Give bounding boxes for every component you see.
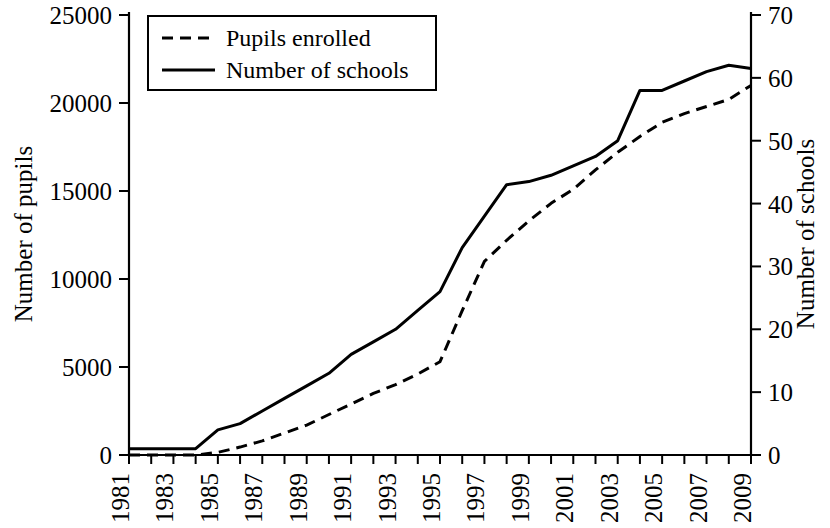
left-tick-label: 10000 [50, 266, 113, 293]
x-tick-label: 1981 [107, 473, 134, 523]
line-chart: 0500010000150002000025000 01020304050607… [0, 0, 830, 528]
x-tick-label: 1989 [285, 473, 312, 523]
x-axis-tick-labels: 1981198319851987198919911993199519971999… [107, 473, 756, 523]
x-tick-label: 1999 [507, 473, 534, 523]
left-tick-label: 25000 [50, 2, 113, 29]
left-tick-label: 0 [100, 442, 113, 469]
x-tick-label: 2005 [640, 473, 667, 523]
x-tick-label: 2007 [685, 473, 712, 523]
right-tick-label: 50 [768, 128, 793, 155]
right-tick-label: 70 [768, 2, 793, 29]
right-tick-label: 40 [768, 191, 793, 218]
right-tick-label: 20 [768, 316, 793, 343]
x-tick-label: 2001 [551, 473, 578, 523]
right-tick-label: 30 [768, 253, 793, 280]
x-tick-label: 1983 [151, 473, 178, 523]
y-axis-title: Number of pupils [10, 146, 37, 322]
right-tick-label: 10 [768, 379, 793, 406]
x-tick-label: 1993 [374, 473, 401, 523]
x-tick-label: 2009 [729, 473, 756, 523]
x-tick-label: 1985 [196, 473, 223, 523]
x-tick-label: 1991 [329, 473, 356, 523]
legend-label-pupils-enrolled: Pupils enrolled [226, 25, 371, 51]
x-tick-label: 1997 [462, 473, 489, 523]
x-tick-label: 1995 [418, 473, 445, 523]
x-tick-label: 1987 [240, 473, 267, 523]
left-tick-label: 15000 [50, 178, 113, 205]
right-tick-label: 60 [768, 65, 793, 92]
legend-label-number-of-schools: Number of schools [226, 57, 409, 83]
right-tick-label: 0 [768, 442, 781, 469]
chart-legend: Pupils enrolled Number of schools [148, 16, 436, 90]
left-tick-label: 20000 [50, 90, 113, 117]
x-tick-label: 2003 [596, 473, 623, 523]
left-tick-label: 5000 [62, 354, 112, 381]
y2-axis-title: Number of schools [792, 139, 819, 329]
chart-container: 0500010000150002000025000 01020304050607… [0, 0, 830, 528]
